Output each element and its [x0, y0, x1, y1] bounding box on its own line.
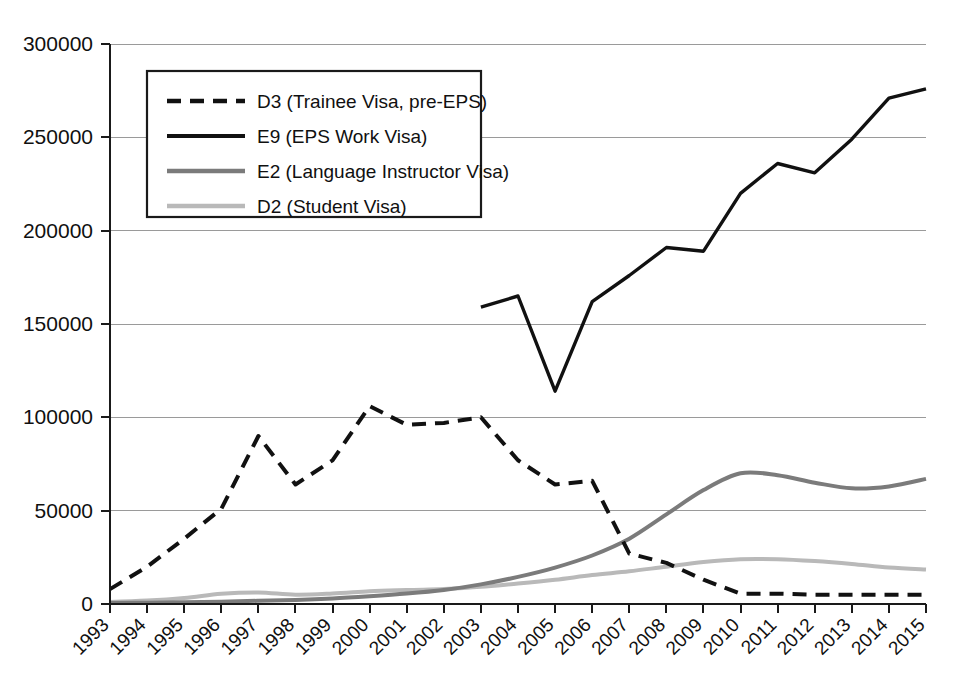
legend-label-e9: E9 (EPS Work Visa): [257, 126, 427, 147]
y-tick-label: 300000: [23, 32, 93, 55]
y-tick-label: 50000: [35, 499, 93, 522]
line-chart: 050000100000150000200000250000300000 199…: [0, 0, 961, 696]
legend: D3 (Trainee Visa, pre-EPS)E9 (EPS Work V…: [147, 71, 509, 217]
legend-label-e2: E2 (Language Instructor Visa): [257, 161, 509, 182]
chart-canvas: 050000100000150000200000250000300000 199…: [0, 0, 961, 696]
legend-label-d2: D2 (Student Visa): [257, 196, 407, 217]
y-tick-label: 0: [81, 592, 93, 615]
y-tick-label: 200000: [23, 219, 93, 242]
legend-label-d3: D3 (Trainee Visa, pre-EPS): [257, 91, 487, 112]
y-tick-label: 100000: [23, 405, 93, 428]
y-tick-label: 250000: [23, 125, 93, 148]
y-tick-label: 150000: [23, 312, 93, 335]
